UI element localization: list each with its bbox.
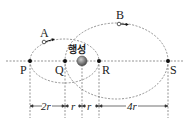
planet [77,56,87,66]
dim-r1: r [71,100,76,112]
label-r: R [102,63,110,77]
label-p: P [20,63,27,77]
satellite-b [117,22,121,26]
dim-r2: r [87,100,92,112]
label-b: B [116,8,124,22]
point-p [28,59,32,63]
dim-2r: 2r [41,100,52,112]
point-r [97,59,101,63]
dim-4r: 4r [127,100,138,112]
orbit-diagram: 2r r r 4r 행성 P Q R S A B [0,0,191,125]
velocity-arrow-b-icon [126,23,129,26]
planet-label: 행성 [68,43,86,55]
satellite-a [42,40,46,44]
label-s: S [170,63,177,77]
label-a: A [40,26,49,40]
label-q: Q [55,63,64,77]
